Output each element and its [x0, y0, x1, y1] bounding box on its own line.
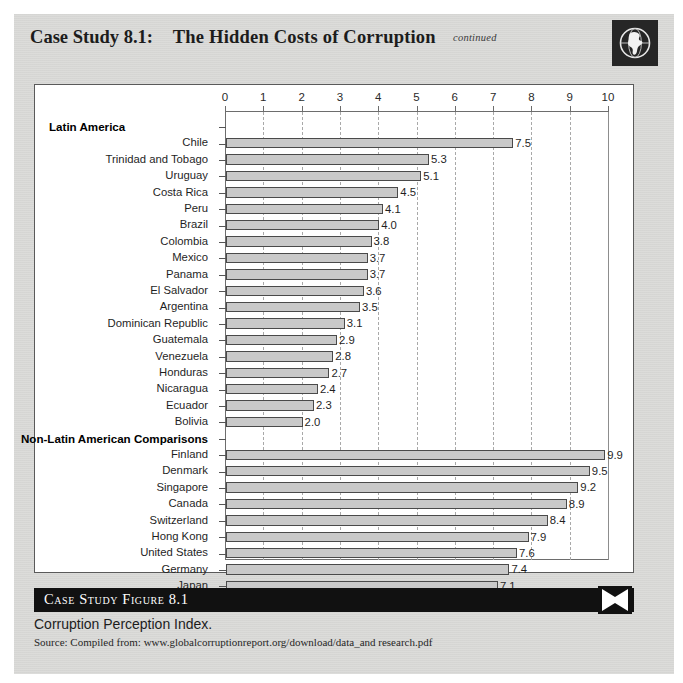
- page-root: Case Study 8.1: The Hidden Costs of Corr…: [0, 0, 683, 683]
- y-tick-mark: [219, 488, 226, 489]
- bar-value-label: 7.4: [511, 563, 527, 575]
- bar-value-label: 9.2: [580, 481, 596, 493]
- bar-value-label: 3.6: [366, 285, 382, 297]
- bar-group-heading-row: Latin America: [35, 119, 635, 135]
- bar-value-label: 3.5: [362, 301, 378, 313]
- y-tick-mark: [219, 324, 226, 325]
- bar-row: Argentina3.5: [35, 299, 635, 315]
- x-tick-label: 2: [298, 91, 304, 103]
- y-tick-mark: [219, 521, 226, 522]
- bar: [226, 171, 421, 182]
- figure-caption-label: Case Study Figure 8.1: [44, 591, 189, 608]
- bar-row: Switzerland8.4: [35, 513, 635, 529]
- bar: [226, 286, 364, 297]
- figure-title: Corruption Perception Index.: [34, 616, 212, 632]
- y-tick-mark: [219, 242, 226, 243]
- bar-category-label: Honduras: [159, 366, 208, 378]
- bar-row: Bolivia2.0: [35, 414, 635, 430]
- bar-value-label: 8.9: [569, 498, 585, 510]
- bar-row: Peru4.1: [35, 201, 635, 217]
- bar-row: Hong Kong7.9: [35, 529, 635, 545]
- bar: [226, 253, 368, 264]
- y-tick-mark: [219, 160, 226, 161]
- bar: [226, 154, 429, 165]
- bar-group-heading-row: Non-Latin American Comparisons: [35, 431, 635, 447]
- bar: [226, 204, 383, 215]
- y-tick-mark: [219, 357, 226, 358]
- y-tick-mark: [219, 176, 226, 177]
- x-tick-label: 0: [222, 91, 228, 103]
- bar-value-label: 3.7: [370, 252, 386, 264]
- bar: [226, 220, 379, 231]
- bar-row: Finland9.9: [35, 447, 635, 463]
- y-tick-mark: [219, 291, 226, 292]
- y-tick-mark: [219, 554, 226, 555]
- bar-row: Costa Rica4.5: [35, 185, 635, 201]
- bar-value-label: 2.3: [316, 399, 332, 411]
- bar-row: Denmark9.5: [35, 463, 635, 479]
- bar: [226, 368, 329, 379]
- bar: [226, 515, 548, 526]
- bar-group-label: Non-Latin American Comparisons: [21, 432, 208, 445]
- bar-value-label: 8.4: [550, 514, 566, 526]
- bar-row: Guatemala2.9: [35, 332, 635, 348]
- y-tick-mark: [219, 209, 226, 210]
- y-tick-mark: [219, 193, 226, 194]
- y-tick-mark: [219, 226, 226, 227]
- y-tick-mark: [219, 439, 226, 440]
- bar-category-label: Singapore: [156, 481, 208, 493]
- y-tick-mark: [219, 373, 226, 374]
- bar-value-label: 2.0: [305, 416, 321, 428]
- x-tick-label: 5: [413, 91, 419, 103]
- case-study-title: The Hidden Costs of Corruption: [173, 26, 436, 47]
- y-tick-mark: [219, 340, 226, 341]
- y-tick-mark: [219, 406, 226, 407]
- bar: [226, 499, 567, 510]
- bar-row: Colombia3.8: [35, 234, 635, 250]
- bar: [226, 450, 605, 461]
- figure-source: Source: Compiled from: www.globalcorrupt…: [34, 636, 432, 648]
- bar-category-label: Panama: [166, 268, 208, 280]
- y-tick-mark: [219, 504, 226, 505]
- bar: [226, 302, 360, 313]
- bar-value-label: 3.8: [374, 235, 390, 247]
- bar: [226, 564, 509, 575]
- bar-category-label: Argentina: [160, 300, 208, 312]
- bar-value-label: 2.4: [320, 383, 336, 395]
- bar-category-label: Bolivia: [175, 415, 208, 427]
- bar-value-label: 7.5: [515, 137, 531, 149]
- bar-category-label: Chile: [182, 136, 208, 148]
- bar-row: Dominican Republic3.1: [35, 316, 635, 332]
- bar-row: El Salvador3.6: [35, 283, 635, 299]
- bar-category-label: Trinidad and Tobago: [106, 153, 208, 165]
- bar: [226, 187, 398, 198]
- bar-category-label: United States: [140, 546, 208, 558]
- bar-value-label: 5.3: [431, 153, 447, 165]
- x-tick-label: 1: [260, 91, 266, 103]
- bar-category-label: Uruguay: [165, 169, 208, 181]
- y-tick-mark: [219, 308, 226, 309]
- x-tick-label: 9: [566, 91, 572, 103]
- y-tick-mark: [219, 537, 226, 538]
- bar-value-label: 2.9: [339, 334, 355, 346]
- bar-category-label: Hong Kong: [151, 530, 208, 542]
- bar-value-label: 4.5: [400, 186, 416, 198]
- x-tick-label: 4: [375, 91, 381, 103]
- bar-row: Honduras2.7: [35, 365, 635, 381]
- bar-value-label: 2.8: [335, 350, 351, 362]
- bar: [226, 417, 303, 428]
- x-tick-label: 10: [602, 91, 615, 103]
- bar: [226, 466, 590, 477]
- bar: [226, 532, 529, 543]
- x-tick-label: 3: [337, 91, 343, 103]
- bar-value-label: 4.1: [385, 203, 401, 215]
- bar: [226, 384, 318, 395]
- bar: [226, 138, 513, 149]
- bar-value-label: 3.1: [347, 317, 363, 329]
- bar-row: Singapore9.2: [35, 480, 635, 496]
- y-tick-mark: [219, 422, 226, 423]
- y-tick-mark: [219, 390, 226, 391]
- bar-category-label: Colombia: [160, 235, 208, 247]
- chart-figure: 012345678910 Latin AmericaChile7.5Trinid…: [34, 84, 634, 573]
- x-tick-label: 6: [452, 91, 458, 103]
